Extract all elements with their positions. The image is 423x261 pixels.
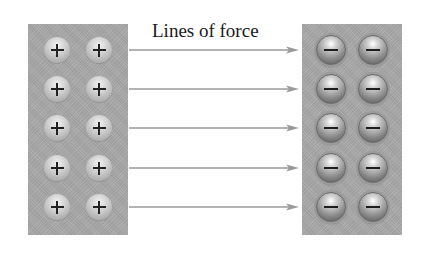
positive-charge-icon [44,115,70,141]
arrow-right-icon [129,45,299,55]
negative-charge-icon [358,35,388,65]
negative-charge-icon [316,153,346,183]
positive-charge-icon [44,76,70,102]
arrow-right-icon [129,84,299,94]
negative-charge-icon [316,192,346,222]
positive-plate [28,24,128,235]
negative-charge-icon [316,113,346,143]
negative-charge-icon [358,153,388,183]
lines-of-force-label: Lines of force [152,20,259,42]
positive-charge-icon [86,37,112,63]
negative-charge-icon [358,74,388,104]
positive-charge-icon [44,37,70,63]
positive-charge-icon [44,155,70,181]
negative-charge-icon [358,192,388,222]
positive-charge-icon [86,155,112,181]
positive-charge-icon [86,115,112,141]
positive-charge-icon [86,76,112,102]
negative-charge-icon [316,35,346,65]
negative-charge-icon [358,113,388,143]
arrow-right-icon [129,123,299,133]
arrow-right-icon [129,202,299,212]
diagram-canvas: Lines of force [0,0,423,261]
positive-charge-icon [44,194,70,220]
positive-charge-icon [86,194,112,220]
arrow-right-icon [129,163,299,173]
negative-charge-icon [316,74,346,104]
